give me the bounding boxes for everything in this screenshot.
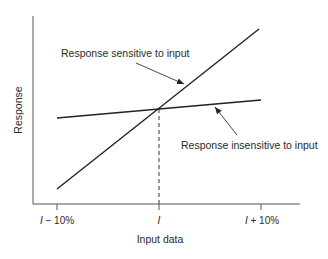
tick-label-plus: I + 10% <box>245 215 279 226</box>
tick-label-minus-suffix: − 10% <box>43 215 75 226</box>
tick-label-plus-suffix: + 10% <box>248 215 280 226</box>
insensitive-response-line <box>57 100 261 118</box>
y-axis-label: Response <box>12 86 24 133</box>
tick-label-center-var: I <box>158 215 161 226</box>
sensitivity-diagram: Response sensitive to input Response ins… <box>0 0 328 259</box>
arrow-sensitive <box>136 63 184 84</box>
arrow-insensitive <box>215 107 237 135</box>
sensitive-label: Response sensitive to input <box>61 47 189 59</box>
x-axis-label: Input data <box>137 233 184 245</box>
tick-label-center: I <box>158 215 161 226</box>
tick-label-minus: I − 10% <box>40 215 74 226</box>
insensitive-label: Response insensitive to input <box>181 139 318 151</box>
